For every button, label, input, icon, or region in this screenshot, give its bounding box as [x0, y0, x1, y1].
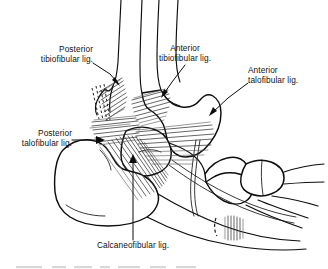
label-line-2: talofibular lig. — [0, 139, 72, 149]
metatarsal-1-outline — [284, 164, 324, 172]
label-posterior-talofibular: Posterior talofibular lig. — [0, 129, 72, 148]
posterior-tibiofibular-hidden-fibers — [92, 84, 110, 121]
figure-caption — [14, 261, 314, 269]
label-line-2: talofibular lig. — [248, 76, 328, 86]
label-line-2: tibiofibular lig. — [142, 54, 228, 64]
metatarsal-1-lower — [284, 182, 324, 184]
metatarsal-2-outline — [272, 196, 318, 206]
posterior-tibiofibular-ligament-fibers — [99, 78, 127, 120]
label-line-2: tibiofibular lig. — [0, 55, 93, 65]
bone-group-midfoot — [205, 157, 284, 204]
label-posterior-tibiofibular: Posterior tibiofibular lig. — [0, 45, 93, 64]
label-calcaneofibular: Calcaneofibular lig. — [76, 241, 190, 251]
metatarsal-2-lower — [258, 200, 308, 218]
label-line-1: Calcaneofibular lig. — [76, 241, 190, 251]
leader-anterior-tibiofibular — [161, 65, 185, 98]
anatomy-figure: Posterior tibiofibular lig. Anterior tib… — [0, 0, 328, 269]
label-anterior-talofibular: Anterior talofibular lig. — [248, 66, 328, 85]
fibula-outline-lateral — [176, 0, 180, 82]
label-anterior-tibiofibular: Anterior tibiofibular lig. — [142, 44, 228, 63]
